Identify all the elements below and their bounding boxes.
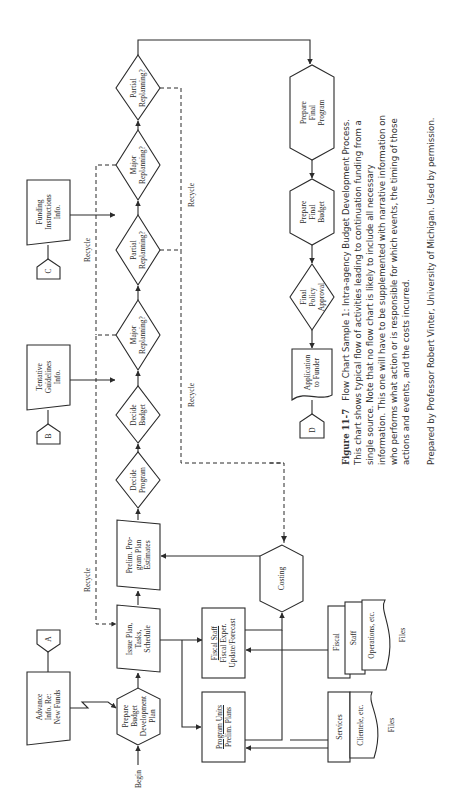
prepare-final-program: PrepareFinalProgram [290, 77, 334, 148]
prelim-program-plan: Prelim. Pro-gram PlanEstimates [117, 522, 160, 588]
issue-plan: Issue Plan,Tasks,Schedule [117, 608, 160, 670]
tentative-guidelines: TentativeGuidelinesInfo. [27, 347, 70, 407]
major-replanning-2: MajorReplanning? [120, 135, 156, 195]
caption-line: information. This one will have to be su… [376, 25, 388, 465]
recycle-label-lower-right: Recycle [186, 175, 196, 215]
files-services-label: Files [385, 710, 397, 740]
flowchart-landscape: Begin PrepareBudgetDevelopmentPlan Issue… [0, 0, 449, 800]
final-policy-approval: FinalPolicyApproval [293, 272, 331, 322]
decide-budget: DecideBudget [120, 390, 156, 440]
files-services-back: Services [328, 692, 350, 762]
prepare-budget-dev-plan: PrepareBudgetDevelopmentPlan [117, 690, 160, 742]
recycle-label-upper-right: Recycle [82, 230, 92, 270]
caption-line: This chart shows typical flow of activit… [352, 25, 364, 465]
costing: Costing [260, 556, 303, 601]
caption-line: who performs what action or is responsib… [388, 25, 400, 465]
caption-line: actions and events, and the costs incurr… [400, 25, 412, 465]
files-services-front: Clientele, etc. [350, 692, 370, 758]
figure-title: Flow Chart Sample 1: Intra-agency Budget… [341, 119, 351, 401]
connector-b: B [37, 428, 60, 444]
decide-program: DecideProgram [120, 455, 156, 505]
partial-replanning-2: PartialReplanning? [120, 59, 156, 117]
partial-replanning-1: PartialReplanning? [120, 220, 156, 280]
caption-line: single source. Note that no flow chart i… [364, 25, 376, 465]
major-replanning-1: MajorReplanning? [120, 305, 156, 365]
program-units: Program UnitsPrelim. Plans [202, 692, 245, 762]
files-fiscal-back: Fiscal [328, 606, 345, 678]
files-fiscal-front: Operations, etc. [362, 600, 380, 670]
connector-d: D [300, 422, 324, 438]
advance-info: AdvanceInfo. Re:New Funds [27, 674, 70, 740]
recycle-label-lower-left: Recycle [186, 375, 196, 415]
figure-credit: Prepared by Professor Robert Vinter, Uni… [426, 25, 436, 465]
prepare-final-budget: PrepareFinalBudget [290, 189, 334, 235]
figure-caption: Figure 11-7 Flow Chart Sample 1: Intra-a… [340, 25, 412, 465]
fiscal-staff: Fiscal StaffFiscal Exper.Update/Forecast [202, 608, 245, 678]
recycle-label-upper-left: Recycle [82, 560, 92, 600]
begin-label: Begin [132, 766, 144, 792]
files-fiscal-middle: Staff [345, 602, 362, 674]
files-fiscal-label: Files [396, 620, 408, 650]
figure-number: Figure 11-7 [341, 409, 351, 465]
connector-c: C [37, 263, 60, 279]
funding-instructions: FundingInstructionsInfo. [27, 182, 70, 242]
connector-a: A [37, 630, 60, 648]
application-to-funder: Applicationto Funder [292, 349, 332, 396]
